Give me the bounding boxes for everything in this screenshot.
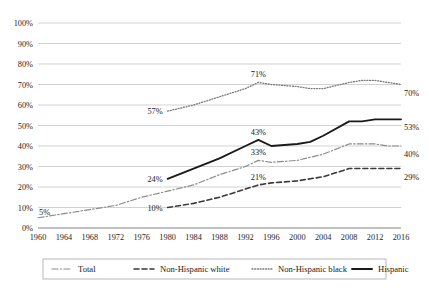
x-axis-tick-label: 2000 xyxy=(289,233,306,242)
y-axis-tick-label: 80% xyxy=(18,60,33,69)
x-axis-tick-label: 2012 xyxy=(367,233,384,242)
data-label: 24% xyxy=(147,175,162,184)
x-axis-tick-label: 1980 xyxy=(159,233,176,242)
line-chart: 100%90%80%70%60%50%40%30%20%10%0% 196019… xyxy=(0,0,429,290)
x-axis-tick-label: 2008 xyxy=(341,233,358,242)
x-axis-tick-label: 2004 xyxy=(315,233,332,242)
y-axis-tick-label: 10% xyxy=(18,204,33,213)
x-axis-tick-label: 1972 xyxy=(107,233,124,242)
data-label: 43% xyxy=(251,128,266,137)
data-label: 71% xyxy=(251,70,266,79)
y-axis-tick-label: 70% xyxy=(18,81,33,90)
legend-label-non-hispanic-white[interactable]: Non-Hispanic white xyxy=(160,264,230,274)
x-axis-tick-label: 1964 xyxy=(56,233,73,242)
legend-label-non-hispanic-black[interactable]: Non-Hispanic black xyxy=(278,264,348,274)
x-axis-tick-label: 1968 xyxy=(82,233,99,242)
chart-legend: TotalNon-Hispanic whiteNon-Hispanic blac… xyxy=(43,259,409,279)
data-label: 70% xyxy=(404,89,419,98)
x-axis-tick-label: 1996 xyxy=(263,233,280,242)
data-label: 21% xyxy=(251,173,266,182)
y-axis-tick-label: 50% xyxy=(18,122,33,131)
y-axis-tick-label: 40% xyxy=(18,142,33,151)
y-axis-tick-label: 0% xyxy=(22,224,33,233)
x-axis-tick-label: 1992 xyxy=(237,233,254,242)
data-label: 40% xyxy=(404,150,419,159)
x-axis-tick-label: 1984 xyxy=(185,233,202,242)
y-axis-tick-label: 100% xyxy=(14,19,33,28)
y-axis-tick-label: 20% xyxy=(18,183,33,192)
data-label: 29% xyxy=(404,173,419,182)
data-label: 57% xyxy=(147,107,162,116)
x-axis-tick-label: 1988 xyxy=(211,233,228,242)
data-label: 53% xyxy=(404,123,419,132)
y-axis-tick-label: 60% xyxy=(18,101,33,110)
y-axis-tick-label: 90% xyxy=(18,40,33,49)
x-axis-tick-label: 1976 xyxy=(133,233,150,242)
x-axis-tick-labels: 1960196419681972197619801984198819921996… xyxy=(30,233,410,242)
x-axis-tick-label: 1960 xyxy=(30,233,47,242)
data-label: 33% xyxy=(251,148,266,157)
y-axis-tick-label: 30% xyxy=(18,163,33,172)
x-axis-tick-label: 2016 xyxy=(393,233,410,242)
chart-container: 100%90%80%70%60%50%40%30%20%10%0% 196019… xyxy=(0,0,429,290)
data-label: 10% xyxy=(147,204,162,213)
legend-label-total[interactable]: Total xyxy=(78,264,96,274)
data-label: 5% xyxy=(39,208,50,217)
legend-label-hispanic[interactable]: Hispanic xyxy=(378,264,409,274)
